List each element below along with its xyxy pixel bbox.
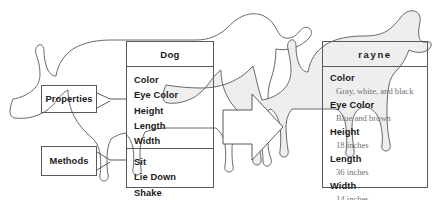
slot-name: Height — [330, 126, 427, 139]
slot-value: 18 inches — [330, 139, 427, 153]
attribute-item: Height — [134, 104, 213, 119]
slot-name: Color — [330, 72, 427, 85]
methods-leader-line — [97, 152, 126, 170]
slot-value: 14 inches — [330, 193, 427, 200]
slot-row: Width 14 inches — [330, 180, 427, 200]
slot-name: Width — [330, 180, 427, 193]
class-methods-compartment: Sit Lie Down Shake Come — [127, 149, 213, 189]
slot-row: Color Gray, white, and black — [330, 72, 427, 99]
slot-row: Height 18 inches — [330, 126, 427, 153]
class-attributes-compartment: Color Eye Color Height Length Width — [127, 67, 213, 127]
callout-label: Properties — [46, 94, 93, 104]
method-item: Lie Down — [134, 170, 213, 185]
callout-methods: Methods — [41, 146, 97, 176]
attribute-item: Length — [134, 119, 213, 134]
slot-name: Eye Color — [330, 99, 427, 112]
object-box-header: rayne — [323, 42, 427, 67]
diagram-canvas: Dog Color Eye Color Height Length Width … — [0, 0, 434, 200]
slot-value: Blue and brown — [330, 112, 427, 126]
slot-value: Gray, white, and black — [330, 85, 427, 99]
attribute-item: Color — [134, 73, 213, 88]
slot-row: Length 36 inches — [330, 153, 427, 180]
class-name: Dog — [160, 49, 180, 60]
object-slots-compartment: Color Gray, white, and black Eye Color B… — [323, 67, 427, 189]
method-item: Sit — [134, 155, 213, 170]
class-box-dog: Dog Color Eye Color Height Length Width … — [126, 41, 214, 188]
slot-value: 36 inches — [330, 166, 427, 180]
slot-name: Length — [330, 153, 427, 166]
slot-row: Eye Color Blue and brown — [330, 99, 427, 126]
callout-properties: Properties — [41, 85, 97, 113]
object-name: rayne — [358, 49, 391, 60]
properties-leader-line — [97, 93, 126, 108]
object-box-rayne: rayne Color Gray, white, and black Eye C… — [322, 41, 428, 188]
class-box-header: Dog — [127, 42, 213, 67]
attribute-item: Eye Color — [134, 88, 213, 103]
method-item: Shake — [134, 186, 213, 200]
callout-label: Methods — [50, 156, 89, 166]
